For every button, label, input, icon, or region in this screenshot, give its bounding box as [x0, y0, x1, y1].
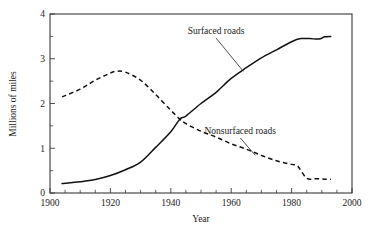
x-tick-label: 1920 [101, 198, 120, 208]
y-tick-label: 0 [40, 188, 45, 198]
x-tick-label: 2000 [343, 198, 362, 208]
x-tick-label: 1960 [222, 198, 241, 208]
y-axis-tick-labels: 01234 [40, 9, 45, 198]
series-line-surfaced-roads [62, 36, 331, 183]
x-tick-label: 1900 [41, 198, 60, 208]
y-axis-title: Millions of miles [8, 71, 18, 137]
series-annotation-leader [240, 138, 255, 155]
y-tick-label: 3 [40, 54, 45, 64]
series-annotation-label: Nonsurfaced roads [205, 126, 277, 136]
x-tick-label: 1980 [282, 198, 301, 208]
series-line-nonsurfaced-roads [62, 71, 331, 179]
y-tick-label: 1 [40, 144, 45, 154]
x-tick-label: 1940 [161, 198, 180, 208]
chart-canvas: 01234 190019201940196019802000 Millions … [0, 0, 375, 231]
y-tick-label: 4 [40, 9, 45, 19]
y-axis-ticks [50, 14, 55, 193]
x-axis-title: Year [192, 214, 210, 224]
x-axis-tick-labels: 190019201940196019802000 [41, 198, 362, 208]
series-annotation-label: Surfaced roads [188, 26, 245, 36]
series-annotations: Surfaced roadsNonsurfaced roads [188, 26, 277, 155]
series-annotation-leader [216, 38, 243, 71]
x-axis-ticks [50, 188, 352, 193]
chart-figure: 01234 190019201940196019802000 Millions … [0, 0, 375, 231]
y-tick-label: 2 [40, 99, 45, 109]
